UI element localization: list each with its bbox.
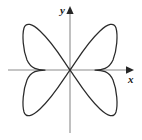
y-axis-label: y [60, 5, 65, 16]
plot-canvas [0, 0, 142, 140]
x-axis-label: x [128, 74, 134, 85]
graph-figure: y x [0, 0, 142, 140]
y-axis-arrowhead-icon [66, 6, 73, 14]
